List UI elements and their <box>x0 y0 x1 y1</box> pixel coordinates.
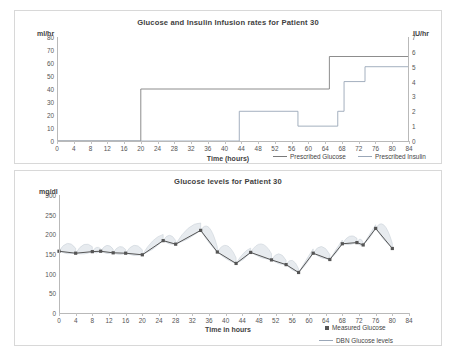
axis-tick-mark <box>225 141 226 144</box>
data-point-marker <box>355 241 358 244</box>
axis-tick-mark <box>174 141 175 144</box>
axis-tick-label: 250 <box>45 211 59 218</box>
axis-tick-label: 40 <box>47 86 57 93</box>
axis-tick-mark <box>375 141 376 144</box>
figure-container: Glucose and Insulin Infusion rates for P… <box>0 0 454 358</box>
top-left-axis-line <box>57 37 58 141</box>
axis-tick-mark <box>109 313 110 316</box>
axis-tick-label: 80 <box>47 34 57 41</box>
axis-tick-mark <box>57 141 58 144</box>
bottom-chart-title: Glucose levels for Patient 30 <box>15 177 441 186</box>
axis-tick-label: 50 <box>47 73 57 80</box>
axis-tick-label: 60 <box>47 60 57 67</box>
bottom-series-plot <box>59 195 409 313</box>
data-point-marker <box>312 252 315 255</box>
series-line-prescribed-insulin <box>57 67 409 141</box>
axis-tick-mark <box>59 313 60 316</box>
axis-tick-mark <box>292 313 293 316</box>
data-point-marker <box>199 229 202 232</box>
axis-tick-mark <box>141 141 142 144</box>
series-line-prescribed-glucose <box>57 57 409 142</box>
data-point-marker <box>162 239 165 242</box>
axis-tick-mark <box>76 313 77 316</box>
data-point-marker <box>249 251 252 254</box>
axis-tick-mark <box>192 313 193 316</box>
axis-tick-mark <box>226 313 227 316</box>
axis-tick-label: 150 <box>45 251 59 258</box>
data-point-marker <box>216 250 219 253</box>
axis-tick-mark <box>259 313 260 316</box>
data-point-marker <box>234 262 237 265</box>
axis-tick-mark <box>292 141 293 144</box>
legend-insulin-line-swatch <box>358 156 372 157</box>
axis-tick-mark <box>191 141 192 144</box>
infusion-rates-chart: Glucose and Insulin Infusion rates for P… <box>14 10 442 164</box>
axis-tick-label: 70 <box>47 47 57 54</box>
axis-tick-label: 100 <box>45 270 59 277</box>
legend-insulin-label: Prescribed Insulin <box>375 153 426 160</box>
axis-tick-label: 7 <box>409 34 416 41</box>
axis-tick-mark <box>158 141 159 144</box>
data-point-marker <box>174 243 177 246</box>
data-point-marker <box>99 250 102 253</box>
axis-tick-mark <box>142 313 143 316</box>
axis-tick-mark <box>409 141 410 144</box>
axis-tick-mark <box>107 141 108 144</box>
data-point-marker <box>374 227 377 230</box>
bottom-left-axis-line <box>59 195 60 313</box>
axis-tick-mark <box>92 313 93 316</box>
data-point-marker <box>270 258 273 261</box>
axis-tick-mark <box>326 313 327 316</box>
axis-tick-mark <box>409 313 410 316</box>
data-point-marker <box>297 271 300 274</box>
axis-tick-label: 10 <box>47 125 57 132</box>
axis-tick-mark <box>275 141 276 144</box>
legend-dbn-label: DBN Glucose levels <box>336 337 393 344</box>
axis-tick-label: 5 <box>409 63 416 70</box>
axis-tick-label: 50 <box>49 290 59 297</box>
data-point-marker <box>74 252 77 255</box>
axis-tick-label: 1 <box>409 123 416 130</box>
data-point-marker <box>141 253 144 256</box>
axis-tick-mark <box>309 313 310 316</box>
axis-tick-mark <box>124 141 125 144</box>
axis-tick-label: 3 <box>409 93 416 100</box>
axis-tick-mark <box>342 141 343 144</box>
axis-tick-mark <box>241 141 242 144</box>
series-band-dbn-glucose-levels <box>59 223 392 273</box>
axis-tick-mark <box>392 141 393 144</box>
axis-tick-mark <box>209 313 210 316</box>
data-point-marker <box>391 247 394 250</box>
axis-tick-mark <box>176 313 177 316</box>
legend-dbn-glucose: DBN Glucose levels <box>319 337 393 344</box>
legend-measured-square-swatch <box>325 326 329 330</box>
axis-tick-mark <box>258 141 259 144</box>
axis-tick-label: 30 <box>47 99 57 106</box>
data-point-marker <box>124 252 127 255</box>
legend-measured-glucose: Measured Glucose <box>325 324 386 331</box>
axis-tick-label: 20 <box>47 112 57 119</box>
legend-prescribed-insulin: Prescribed Insulin <box>358 153 426 160</box>
data-point-marker <box>341 242 344 245</box>
data-point-marker <box>91 250 94 253</box>
axis-tick-mark <box>359 313 360 316</box>
bottom-plot-area: 050100150200250300 048121620242832364044… <box>59 195 409 313</box>
data-point-marker <box>112 251 115 254</box>
data-point-marker <box>328 258 331 261</box>
legend-prescribed-glucose: Prescribed Glucose <box>273 153 346 160</box>
axis-tick-mark <box>392 313 393 316</box>
top-chart-title: Glucose and Insulin Infusion rates for P… <box>15 18 441 27</box>
legend-dbn-line-swatch <box>319 340 333 341</box>
axis-tick-mark <box>126 313 127 316</box>
axis-tick-mark <box>359 141 360 144</box>
axis-tick-mark <box>91 141 92 144</box>
axis-tick-mark <box>242 313 243 316</box>
axis-tick-mark <box>308 141 309 144</box>
top-plot-area: 01020304050607080 01234567 0481216202428… <box>57 37 409 141</box>
axis-tick-label: 2 <box>409 108 416 115</box>
axis-tick-mark <box>276 313 277 316</box>
data-point-marker <box>362 243 365 246</box>
axis-tick-mark <box>159 313 160 316</box>
axis-tick-mark <box>208 141 209 144</box>
axis-tick-label: 300 <box>45 192 59 199</box>
